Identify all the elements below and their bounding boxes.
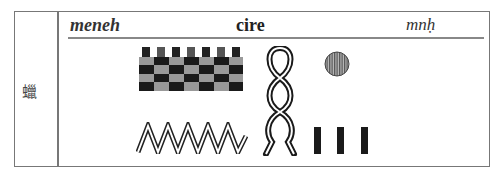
plural-strokes-glyph xyxy=(312,127,372,155)
water-zigzag-glyph xyxy=(136,122,248,154)
column-divider xyxy=(57,11,59,167)
gloss-word: cire xyxy=(236,15,265,36)
sun-disc-glyph xyxy=(324,51,350,77)
header-rule xyxy=(68,37,484,39)
checkered-block-glyph xyxy=(139,47,245,93)
transcription: mnḥ xyxy=(406,15,435,35)
twisted-rope-glyph xyxy=(262,46,298,156)
transliteration: meneh xyxy=(70,15,120,36)
side-label: 蠟 xyxy=(22,80,37,101)
